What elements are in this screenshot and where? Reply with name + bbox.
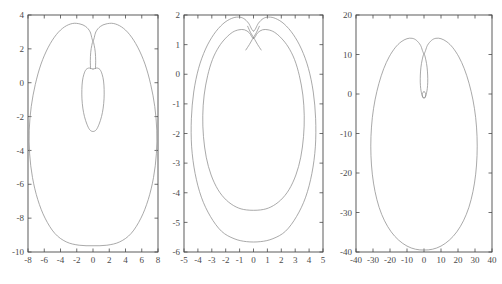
plot-panel-1: -8-6-4-202468420-2-4-6-8-10 <box>0 0 168 284</box>
x-tick-label: 0 <box>251 255 256 265</box>
curve-inner-loop-curve <box>82 68 104 131</box>
x-tick-label: 10 <box>437 255 447 265</box>
x-tick-label: -10 <box>401 255 413 265</box>
curves-group <box>371 38 477 250</box>
x-tick-label: -1 <box>236 255 244 265</box>
y-tick-label: -4 <box>17 146 25 156</box>
y-tick-label: -10 <box>12 247 24 257</box>
y-tick-label: -4 <box>173 188 181 198</box>
curve-outer-lobe-curve <box>29 23 157 245</box>
x-tick-label: 6 <box>140 255 145 265</box>
plot-svg-3: -40-30-20-1001020304020100-10-20-30-40 <box>334 0 502 284</box>
curve-outer-twin-lobe-curve <box>191 17 316 242</box>
x-tick-label: 2 <box>279 255 284 265</box>
x-tick-label: -30 <box>367 255 379 265</box>
curve-inner-micro-loop <box>422 92 426 98</box>
x-tick-label: 30 <box>471 255 481 265</box>
x-tick-label: 8 <box>156 255 161 265</box>
x-tick-label: 40 <box>488 255 498 265</box>
curve-inner-narrow-loop <box>420 54 428 98</box>
plot-frame <box>28 15 158 252</box>
y-tick-label: -10 <box>340 129 352 139</box>
y-tick-label: 20 <box>343 10 353 20</box>
x-tick-label: -5 <box>180 255 188 265</box>
plot-frame <box>356 15 492 252</box>
x-tick-label: 0 <box>422 255 427 265</box>
curve-inner-twin-lobe-curve <box>203 29 305 210</box>
plot-svg-2: -5-4-3-2-1012345210-1-2-3-4-5-6 <box>168 0 334 284</box>
x-tick-label: -2 <box>222 255 230 265</box>
y-tick-label: -2 <box>17 112 25 122</box>
y-tick-label: -2 <box>173 129 181 139</box>
y-tick-label: -30 <box>340 208 352 218</box>
x-tick-label: -6 <box>41 255 49 265</box>
y-tick-label: 1 <box>176 40 181 50</box>
figure-container: -8-6-4-202468420-2-4-6-8-10 -5-4-3-2-101… <box>0 0 502 284</box>
curve-outer-lobe-curve <box>371 38 477 250</box>
y-tick-label: 2 <box>20 44 25 54</box>
plot-svg-1: -8-6-4-202468420-2-4-6-8-10 <box>0 0 168 284</box>
y-tick-label: -3 <box>173 158 181 168</box>
x-tick-label: 5 <box>321 255 326 265</box>
x-tick-label: 1 <box>265 255 270 265</box>
y-tick-label: -5 <box>173 218 181 228</box>
y-tick-label: 0 <box>20 78 25 88</box>
curves-group <box>191 17 316 242</box>
x-tick-label: -4 <box>57 255 65 265</box>
y-tick-label: -6 <box>173 247 181 257</box>
y-tick-label: 0 <box>176 69 181 79</box>
plot-panel-3: -40-30-20-1001020304020100-10-20-30-40 <box>334 0 502 284</box>
x-tick-label: 4 <box>307 255 312 265</box>
y-tick-label: 10 <box>343 50 353 60</box>
x-tick-label: 20 <box>454 255 464 265</box>
x-tick-label: -3 <box>208 255 216 265</box>
y-tick-label: -1 <box>173 99 181 109</box>
y-tick-label: 0 <box>348 89 353 99</box>
x-tick-label: -20 <box>384 255 396 265</box>
y-tick-label: 4 <box>20 10 25 20</box>
y-tick-label: 2 <box>176 10 181 20</box>
y-tick-label: -6 <box>17 179 25 189</box>
x-tick-label: 4 <box>123 255 128 265</box>
y-tick-label: -8 <box>17 213 25 223</box>
curve-cusp-connector <box>90 41 95 68</box>
x-tick-label: 3 <box>293 255 298 265</box>
x-tick-label: 2 <box>107 255 112 265</box>
y-tick-label: -20 <box>340 168 352 178</box>
x-tick-label: 0 <box>91 255 96 265</box>
x-tick-label: -2 <box>73 255 81 265</box>
x-tick-label: -4 <box>194 255 202 265</box>
plot-panel-2: -5-4-3-2-1012345210-1-2-3-4-5-6 <box>168 0 334 284</box>
x-tick-label: -8 <box>24 255 32 265</box>
y-tick-label: -40 <box>340 247 352 257</box>
curves-group <box>29 23 157 245</box>
